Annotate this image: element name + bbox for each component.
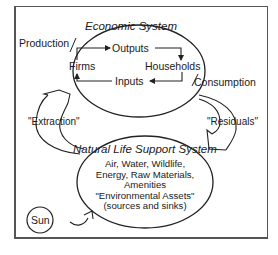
outputs-label: Outputs (112, 43, 149, 54)
production-tick (70, 38, 76, 52)
residuals-label: "Residuals" (207, 117, 258, 127)
inputs-label: Inputs (115, 76, 144, 87)
sun-label: Sun (31, 215, 50, 226)
firms-label: Firms (69, 61, 95, 72)
natural-system-line: Air, Water, Wildlife, (80, 159, 210, 170)
households-label: Households (145, 61, 200, 72)
consumption-label: Consumption (194, 77, 256, 88)
economic-system-title: Economic System (85, 21, 177, 33)
production-label: Production (19, 38, 69, 49)
extraction-label: "Extraction" (28, 117, 80, 127)
natural-system-title: Natural Life Support System (73, 144, 217, 156)
sun-arrow (70, 211, 93, 225)
natural-system-line: (sources and sinks) (80, 201, 210, 212)
natural-system-contents: Air, Water, Wildlife, Energy, Raw Materi… (80, 159, 210, 212)
